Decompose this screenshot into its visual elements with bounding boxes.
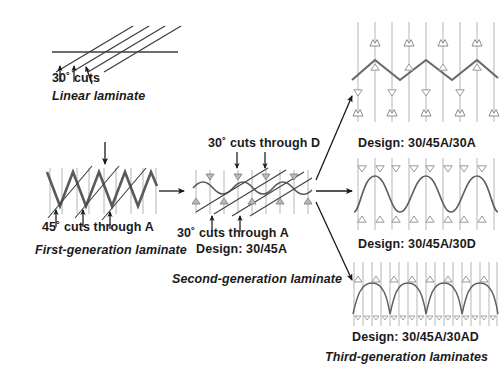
panel-design-30-45A-30D-graphic (354, 158, 498, 230)
second-gen-laminate-name: Second-generation laminate (172, 273, 342, 287)
first-gen-laminate-name: First-generation laminate (35, 244, 187, 258)
second-gen-cuts-d-label: 30˚ cuts through D (208, 137, 320, 151)
linear-cuts-label: 30˚ cuts (52, 72, 100, 86)
diagram-vector-layer (0, 0, 500, 375)
second-gen-cuts-a-label: 30˚ cuts through A (177, 227, 289, 241)
first-gen-cuts-label: 45˚ cuts through A (42, 221, 154, 235)
arrow-second-to-design-a (316, 96, 352, 180)
panel-design-30-45A-30AD-graphic (353, 262, 498, 326)
figure-canvas: 30˚ cuts Linear laminate 45˚ cuts throug… (0, 0, 500, 375)
panel-second-generation-graphic (192, 152, 312, 232)
third-gen-group-label: Third-generation laminates (325, 351, 488, 365)
panel-design-30-45A-30A-graphic (352, 22, 499, 122)
arrow-second-to-design-ad (316, 202, 352, 280)
design-30-45A-30A-label: Design: 30/45A/30A (358, 137, 476, 151)
second-gen-design-label: Design: 30/45A (196, 243, 287, 257)
linear-laminate-name: Linear laminate (52, 90, 145, 104)
design-30-45A-30AD-label: Design: 30/45A/30AD (352, 331, 479, 345)
panel-first-generation-graphic (47, 142, 157, 229)
design-30-45A-30D-label: Design: 30/45A/30D (358, 238, 476, 252)
